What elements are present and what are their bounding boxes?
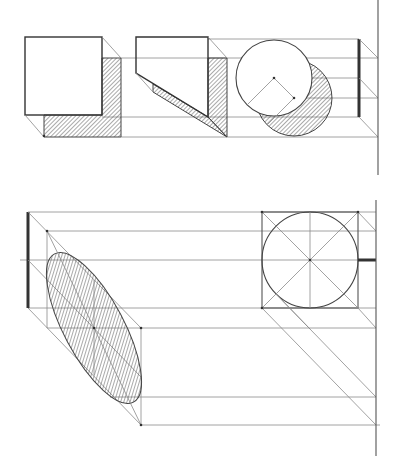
circle-in-square <box>261 211 376 425</box>
pentagon-with-shadow <box>136 37 227 137</box>
top-profile-view <box>359 0 378 175</box>
technical-drawing <box>0 0 400 469</box>
bottom-panel <box>20 200 380 456</box>
square-with-shadow <box>25 37 121 137</box>
ellipse-shadow <box>28 212 160 426</box>
circle-with-shadow <box>236 40 332 136</box>
top-panel <box>25 0 378 175</box>
